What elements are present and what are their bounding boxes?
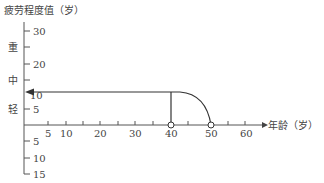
level-medium-label: 中: [8, 74, 18, 86]
marker-age-38: [168, 122, 174, 128]
fatigue-decline-curve: [171, 92, 211, 125]
y-tick-neg15: 15: [33, 169, 46, 180]
level-heavy-label: 重: [8, 41, 18, 53]
y-tick-5: 5: [33, 104, 39, 115]
y-ticks: [24, 31, 30, 174]
y-tick-neg5: 5: [33, 136, 39, 147]
level-light-label: 轻: [8, 103, 18, 115]
x-tick-60: 60: [240, 128, 253, 139]
x-tick-10: 10: [60, 128, 73, 139]
y-tick-neg10: 10: [33, 153, 46, 164]
x-axis-title: 年龄（岁）: [268, 119, 318, 131]
x-ticks: [48, 121, 245, 125]
x-tick-50: 50: [205, 128, 218, 139]
x-tick-5: 5: [45, 128, 51, 139]
y-tick-30: 30: [33, 26, 46, 37]
x-tick-40: 40: [165, 128, 178, 139]
x-tick-20: 20: [94, 128, 107, 139]
y-axis-title: 疲劳程度值（岁）: [4, 4, 84, 16]
y-tick-20: 20: [33, 59, 46, 70]
marker-age-50: [208, 122, 214, 128]
x-tick-30: 30: [129, 128, 142, 139]
fatigue-chart: 30 20 10 5 5 10 15 重 中 轻 疲劳程度值（岁） 5 10 2…: [0, 0, 324, 183]
